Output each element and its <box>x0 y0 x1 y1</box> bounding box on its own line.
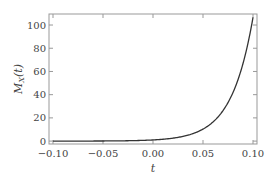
y-tick-label: 40 <box>33 89 46 100</box>
y-tick-label: 0 <box>40 136 46 147</box>
y-axis-label: MX(t) <box>12 64 26 95</box>
x-tick-label: 0.10 <box>242 148 264 159</box>
y-tick-label: 60 <box>33 66 46 77</box>
x-axis-label: t <box>151 162 156 175</box>
y-tick-label: 20 <box>33 112 46 123</box>
plot-frame <box>49 14 257 144</box>
x-tick-label: 0.05 <box>192 148 214 159</box>
x-tick-label: 0.00 <box>142 148 164 159</box>
y-tick-label: 100 <box>27 20 46 31</box>
x-tick-label: −0.10 <box>38 148 69 159</box>
y-tick-label: 80 <box>33 43 46 54</box>
chart: −0.10−0.050.000.050.10 020406080100 t MX… <box>0 0 279 182</box>
x-tick-label: −0.05 <box>88 148 119 159</box>
